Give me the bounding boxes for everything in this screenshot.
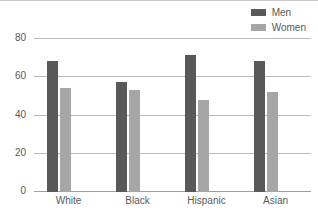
x-tick-label-asian: Asian (241, 195, 310, 207)
top-divider (0, 0, 318, 1)
x-tick-label-white: White (34, 195, 103, 207)
bar-group-black (103, 38, 172, 192)
bar-hispanic-women[interactable] (198, 100, 209, 192)
y-tick-label-20: 20 (0, 148, 26, 158)
y-tick-label-60: 60 (0, 71, 26, 81)
legend-swatch-icon-men (251, 9, 266, 16)
bar-black-men[interactable] (116, 82, 127, 192)
legend-swatch-icon-women (251, 24, 266, 31)
y-tick-label-40: 40 (0, 110, 26, 120)
y-tick-label-80: 80 (0, 33, 26, 43)
bar-hispanic-men[interactable] (185, 55, 196, 192)
bar-group-asian (241, 38, 310, 192)
x-axis: White Black Hispanic Asian (34, 195, 311, 211)
legend-item-men[interactable]: Men (251, 6, 291, 18)
bar-chart: Men Women 80 60 40 20 0 (0, 0, 318, 214)
bar-asian-men[interactable] (254, 61, 265, 192)
bar-white-men[interactable] (47, 61, 58, 192)
x-tick-label-hispanic: Hispanic (172, 195, 241, 207)
bar-asian-women[interactable] (267, 92, 278, 192)
bar-black-women[interactable] (129, 90, 140, 192)
bar-group-white (34, 38, 103, 192)
chart-legend: Men Women (251, 6, 306, 33)
legend-label-women: Women (272, 22, 306, 33)
bar-group-hispanic (172, 38, 241, 192)
x-tick-label-black: Black (103, 195, 172, 207)
legend-item-women[interactable]: Women (251, 21, 306, 33)
y-tick-label-0: 0 (0, 186, 26, 196)
bar-white-women[interactable] (60, 88, 71, 192)
bar-groups (34, 38, 311, 192)
legend-label-men: Men (272, 7, 291, 18)
